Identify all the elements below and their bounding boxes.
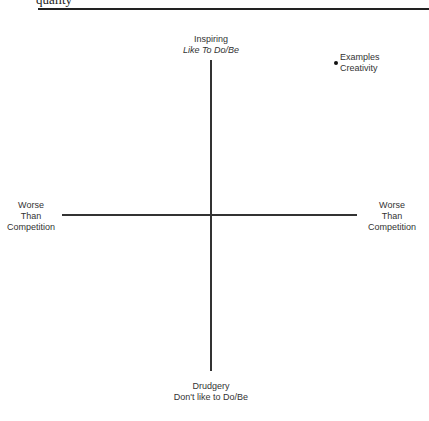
- data-point-dot: [334, 61, 338, 65]
- data-point-label-line2: Creativity: [340, 63, 380, 74]
- data-point-label: Examples Creativity: [340, 52, 380, 74]
- bottom-axis-label: Drudgery Don't like to Do/Be: [160, 381, 262, 403]
- bottom-axis-title: Drudgery: [160, 381, 262, 392]
- right-axis-line2: Than: [356, 211, 428, 222]
- top-axis-label: Inspiring Like To Do/Be: [160, 34, 262, 56]
- data-point-label-line1: Examples: [340, 52, 380, 63]
- left-axis-line1: Worse: [2, 200, 60, 211]
- right-axis-label: Worse Than Competition: [356, 200, 428, 233]
- vertical-axis: [210, 60, 212, 371]
- left-axis-line2: Than: [2, 211, 60, 222]
- left-axis-line3: Competition: [2, 222, 60, 233]
- right-axis-line1: Worse: [356, 200, 428, 211]
- top-rule-divider: [38, 8, 429, 10]
- bottom-axis-subtitle: Don't like to Do/Be: [160, 392, 262, 403]
- top-axis-title: Inspiring: [160, 34, 262, 45]
- horizontal-axis: [62, 214, 357, 216]
- left-axis-label: Worse Than Competition: [2, 200, 60, 233]
- cut-off-heading: quality: [36, 0, 72, 8]
- top-axis-subtitle: Like To Do/Be: [160, 45, 262, 56]
- right-axis-line3: Competition: [356, 222, 428, 233]
